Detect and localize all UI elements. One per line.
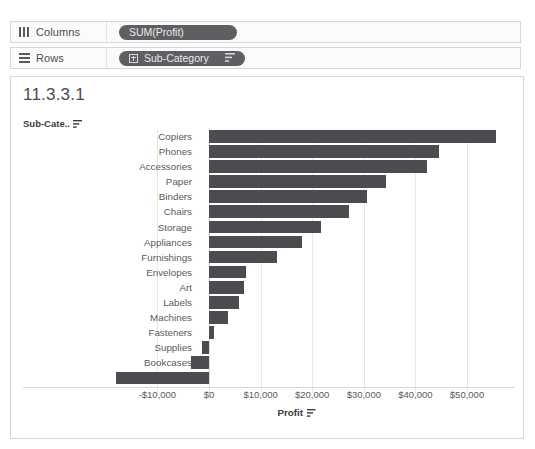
- x-axis-line: [23, 387, 515, 388]
- bar-machines[interactable]: [209, 311, 228, 324]
- bar-supplies[interactable]: [202, 341, 209, 354]
- x-axis-tick-label: $30,000: [347, 389, 381, 400]
- rows-pill-text: Sub-Category: [144, 52, 209, 64]
- sort-descending-icon[interactable]: [307, 409, 316, 417]
- x-axis-title-text: Profit: [277, 407, 303, 418]
- columns-icon: [19, 27, 30, 37]
- x-axis-tick-label: -$10,000: [139, 389, 177, 400]
- columns-label-text: Columns: [36, 26, 80, 38]
- bar-envelopes[interactable]: [209, 266, 246, 279]
- bar-series: [11, 129, 525, 386]
- columns-pill-sum-profit[interactable]: SUM(Profit): [119, 25, 237, 40]
- bar-row: [11, 265, 525, 280]
- bar-row: [11, 355, 525, 370]
- columns-shelf[interactable]: Columns SUM(Profit): [10, 21, 521, 43]
- x-axis-tick-label: $20,000: [295, 389, 329, 400]
- bar-row: [11, 295, 525, 310]
- rows-pill-sub-category[interactable]: Sub-Category: [119, 51, 245, 66]
- x-axis-tick-label: $0: [204, 389, 215, 400]
- bar-accessories[interactable]: [209, 160, 427, 173]
- columns-pill-text: SUM(Profit): [129, 26, 184, 38]
- bar-row: [11, 340, 525, 355]
- bar-paper[interactable]: [209, 175, 386, 188]
- bar-row: [11, 310, 525, 325]
- viz-panel[interactable]: 11.3.3.1 Sub-Cate.. CopiersPhonesAccesso…: [10, 76, 524, 439]
- cut-off-header-text: [0, 0, 535, 13]
- sort-descending-icon[interactable]: [215, 52, 235, 64]
- rows-icon: [19, 53, 30, 63]
- bar-storage[interactable]: [209, 221, 321, 234]
- bar-row: [11, 144, 525, 159]
- bar-copiers[interactable]: [209, 130, 496, 143]
- bar-row: [11, 204, 525, 219]
- bar-row: [11, 174, 525, 189]
- bar-chairs[interactable]: [209, 205, 349, 218]
- bar-row: [11, 280, 525, 295]
- columns-shelf-label: Columns: [11, 22, 107, 42]
- bar-phones[interactable]: [209, 145, 439, 158]
- bar-labels[interactable]: [209, 296, 239, 309]
- bar-art[interactable]: [209, 281, 244, 294]
- bar-appliances[interactable]: [209, 236, 302, 249]
- expand-plus-icon[interactable]: [129, 54, 138, 63]
- bar-row: [11, 250, 525, 265]
- bar-fasteners[interactable]: [209, 326, 214, 339]
- bar-row: [11, 325, 525, 340]
- x-axis-labels: -$10,000$0$10,000$20,000$30,000$40,000$5…: [11, 389, 525, 403]
- bar-row: [11, 220, 525, 235]
- bar-row: [11, 235, 525, 250]
- tableau-worksheet: Columns SUM(Profit) Rows Sub-Category: [0, 0, 535, 449]
- bar-row: [11, 189, 525, 204]
- x-axis-tick-label: $10,000: [243, 389, 277, 400]
- rows-shelf-label: Rows: [11, 48, 107, 68]
- x-axis-title[interactable]: Profit: [277, 407, 316, 418]
- bar-tables[interactable]: [116, 372, 209, 385]
- chart-plot-area: CopiersPhonesAccessoriesPaperBindersChai…: [11, 77, 525, 440]
- rows-shelf[interactable]: Rows Sub-Category: [10, 47, 521, 69]
- bar-row: [11, 159, 525, 174]
- bar-furnishings[interactable]: [209, 251, 277, 264]
- bar-bookcases[interactable]: [191, 356, 209, 369]
- bar-row: [11, 371, 525, 386]
- rows-label-text: Rows: [36, 52, 64, 64]
- bar-binders[interactable]: [209, 190, 367, 203]
- bar-row: [11, 129, 525, 144]
- x-axis-tick-label: $50,000: [450, 389, 484, 400]
- x-axis-tick-label: $40,000: [398, 389, 432, 400]
